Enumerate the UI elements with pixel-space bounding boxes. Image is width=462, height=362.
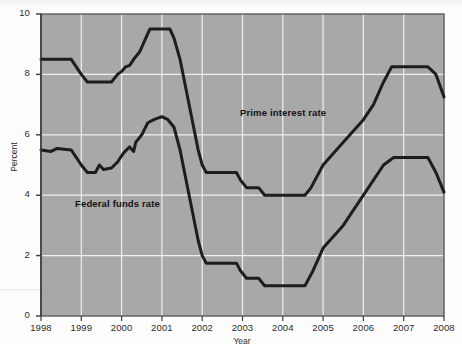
y-tick-label: 0 bbox=[2, 309, 30, 320]
x-tick-label: 2002 bbox=[182, 322, 222, 333]
chart-figure: 0246810 19981999200020012002200320042005… bbox=[0, 0, 462, 362]
y-tick-label: 8 bbox=[2, 67, 30, 78]
y-tick-label: 10 bbox=[2, 7, 30, 18]
x-tick-marks bbox=[41, 316, 444, 321]
scan-artifact-bottom bbox=[0, 346, 462, 362]
y-tick-label: 4 bbox=[2, 188, 30, 199]
series-label-federal-funds-rate: Federal funds rate bbox=[75, 198, 160, 209]
x-tick-label: 2008 bbox=[424, 322, 462, 333]
line-chart-plot bbox=[0, 0, 462, 362]
y-axis-title: Percent bbox=[9, 127, 19, 187]
x-tick-label: 1998 bbox=[21, 322, 61, 333]
x-axis-title: Year bbox=[222, 336, 262, 346]
x-tick-label: 2003 bbox=[223, 322, 263, 333]
x-tick-label: 2000 bbox=[102, 322, 142, 333]
series-label-prime-interest-rate: Prime interest rate bbox=[240, 107, 326, 118]
y-tick-label: 2 bbox=[2, 249, 30, 260]
x-tick-label: 2004 bbox=[263, 322, 303, 333]
x-tick-label: 2005 bbox=[303, 322, 343, 333]
x-tick-label: 1999 bbox=[61, 322, 101, 333]
x-tick-label: 2007 bbox=[384, 322, 424, 333]
x-tick-label: 2001 bbox=[142, 322, 182, 333]
x-tick-label: 2006 bbox=[343, 322, 383, 333]
